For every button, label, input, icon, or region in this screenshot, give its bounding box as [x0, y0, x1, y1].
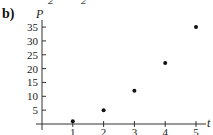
data-point: [102, 108, 106, 112]
data-point: [71, 119, 75, 123]
y-tick-label: 15: [27, 76, 39, 88]
y-tick-label: 35: [27, 21, 39, 33]
y-tick-label: 30: [27, 35, 39, 47]
x-tick-label: 3: [132, 126, 138, 135]
scatter-chart: Pt123455101520253035: [0, 0, 213, 135]
data-point: [194, 25, 198, 29]
x-tick-label: 4: [162, 126, 168, 135]
x-tick-label: 1: [70, 126, 76, 135]
data-point: [132, 89, 136, 93]
x-tick-label: 2: [101, 126, 107, 135]
y-tick-label: 10: [27, 90, 39, 102]
x-tick-label: 5: [193, 126, 199, 135]
data-point: [163, 61, 167, 65]
y-tick-label: 20: [27, 63, 39, 75]
y-tick-label: 5: [33, 104, 39, 116]
x-axis-label: t: [207, 116, 211, 130]
y-axis-label: P: [35, 7, 44, 21]
y-tick-label: 25: [27, 49, 39, 61]
